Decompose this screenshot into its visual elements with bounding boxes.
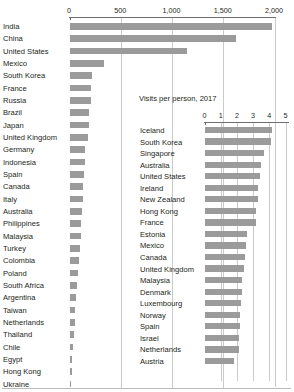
main-chart-tick-label: 500 [114,6,126,15]
inset-chart-category-label: Iceland [140,125,165,136]
inset-chart-bar-row: United States [139,171,294,183]
inset-chart-tick-label: 0 [203,111,207,120]
inset-chart-category-label: Estonia [140,229,165,240]
inset-chart-tick-label: 5 [284,111,288,120]
main-chart-bar [70,171,84,178]
inset-chart-title: Visits per person, 2017 [139,94,217,103]
main-chart-bar [70,196,83,203]
main-chart-bar [70,60,105,67]
inset-chart: Visits per person, 2017 012345 IcelandSo… [139,94,294,392]
inset-chart-bar-row: Netherlands [139,344,294,356]
main-chart-category-label: France [3,83,27,94]
inset-chart-bar-row: Australia [139,160,294,172]
main-chart-bar-row: United States [0,46,294,58]
main-chart-bar [70,294,77,301]
inset-chart-bar-row: Estonia [139,229,294,241]
main-chart-category-label: Germany [3,144,34,155]
main-chart-category-label: Spain [3,169,22,180]
inset-chart-bar-row: Israel [139,333,294,345]
inset-chart-tick-label: 3 [251,111,255,120]
inset-chart-category-label: New Zealand [140,194,185,205]
main-chart-category-label: Japan [3,120,24,131]
inset-chart-category-label: Denmark [140,287,171,298]
main-chart-category-label: Malaysia [3,231,33,242]
main-chart-bar [70,331,75,338]
inset-chart-category-label: South Korea [140,137,182,148]
main-chart-category-label: United States [3,46,49,57]
main-chart-category-label: United Kingdom [3,132,57,143]
main-chart-bar [70,146,85,153]
main-chart-category-label: Egypt [3,354,22,365]
main-chart-bar [70,208,82,215]
main-chart-bar [70,85,92,92]
main-chart-bar-row: Mexico [0,58,294,70]
main-chart-category-label: Argentina [3,292,36,303]
main-chart-tick-label: 0 [67,6,71,15]
inset-chart-bar [205,231,247,237]
main-chart-category-label: Brazil [3,107,22,118]
main-chart-bar-row: China [0,33,294,45]
main-chart-bar [70,245,80,252]
inset-chart-tick-label: 1 [219,111,223,120]
main-chart-category-label: Poland [3,268,27,279]
inset-chart-category-label: Norway [140,310,166,321]
inset-chart-category-label: Netherlands [140,344,181,355]
main-chart-tick-label: 1,000 [163,6,181,15]
inset-chart-category-label: Mexico [140,240,164,251]
inset-chart-category-label: Canada [140,252,167,263]
main-chart-tick-mark [70,17,71,20]
footer-divider [2,388,291,389]
inset-chart-bar-row: France [139,217,294,229]
inset-chart-category-label: Singapore [140,148,175,159]
main-chart-bar [70,35,236,42]
inset-chart-bar [205,173,260,179]
main-chart-bar [70,270,78,277]
inset-chart-bar-row: Mexico [139,240,294,252]
inset-chart-bar [205,127,272,133]
inset-chart-category-label: Luxembourg [140,298,182,309]
main-chart-bar-row: South Korea [0,70,294,82]
inset-chart-bar-row: Denmark [139,287,294,299]
main-chart-bar [70,282,77,289]
inset-chart-tick-label: 4 [267,111,271,120]
inset-chart-bar-row: Malaysia [139,275,294,287]
inset-chart-bar [205,254,246,260]
main-chart-tick-label: 2,000 [265,6,283,15]
main-chart-bar [70,97,91,104]
main-chart-category-label: South Korea [3,70,45,81]
main-chart-category-label: Philippines [3,218,40,229]
inset-chart-bar-row: Austria [139,356,294,368]
inset-chart-category-label: Spain [140,321,159,332]
inset-chart-rows: IcelandSouth KoreaSingaporeAustraliaUnit… [139,125,294,367]
inset-chart-bar [205,138,271,144]
inset-chart-category-label: Australia [140,160,170,171]
inset-chart-category-label: Malaysia [140,275,170,286]
main-chart-bar [70,122,89,129]
main-chart-category-label: Thailand [3,329,32,340]
main-chart-category-label: South Africa [3,280,44,291]
inset-chart-bar [205,208,257,214]
main-chart-category-label: Netherlands [3,317,44,328]
main-chart-category-label: India [3,21,19,32]
main-chart-category-label: Australia [3,206,33,217]
main-chart-category-label: Canada [3,181,30,192]
main-chart-bar [70,183,84,190]
main-chart-bar [70,48,188,55]
inset-chart-bar-row: United Kingdom [139,264,294,276]
inset-chart-bar [205,300,241,306]
main-chart-bar [70,344,74,351]
inset-chart-bar [205,265,245,271]
inset-chart-bar [205,335,240,341]
main-chart-bar [70,159,85,166]
chart-figure: 05001,0001,5002,000 IndiaChinaUnited Sta… [0,0,294,392]
main-chart-bar [70,319,75,326]
inset-chart-x-axis-labels: 012345 [139,111,294,121]
main-chart-bar [70,109,90,116]
inset-chart-bar-row: Singapore [139,148,294,160]
main-chart-bar [70,307,76,314]
inset-chart-bar-row: South Korea [139,137,294,149]
inset-chart-category-label: United Kingdom [140,264,194,275]
inset-chart-category-label: Israel [140,333,159,344]
main-chart-category-label: Italy [3,194,17,205]
inset-chart-bar-row: Iceland [139,125,294,137]
